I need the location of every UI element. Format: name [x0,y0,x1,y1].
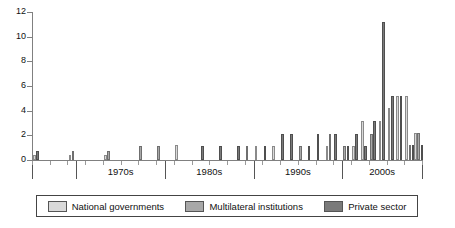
x-axis-tick [369,161,370,165]
x-axis-tick [422,161,423,165]
x-axis-tick [404,161,405,165]
swatch-national-governments-icon [48,201,67,212]
bar-segment-national-governments [33,155,36,160]
y-axis-label: 2 [0,130,26,139]
bar-group [352,12,359,160]
decade-label: 1980s [165,166,254,178]
bar-group [104,12,111,160]
bar-segment-national-governments [272,146,275,160]
bar-segment-national-governments [405,96,408,160]
bar-group [396,12,403,160]
bar-segment-private-sector [391,96,394,160]
bar-segment-private-sector [290,134,293,160]
x-axis-tick [227,161,228,165]
x-axis-tick [209,161,210,165]
bar-group [281,12,284,160]
x-axis-tick [387,161,388,165]
bar-group [317,12,320,160]
legend-item-private-sector: Private sector [324,201,406,212]
x-axis-tick [262,161,263,165]
legend-item-multilateral-institutions: Multilateral institutions [185,201,302,212]
bar-segment-private-sector [36,151,39,160]
bar-group [299,12,302,160]
bar-segment-private-sector [308,146,311,160]
swatch-multilateral-institutions-icon [185,201,204,212]
bar-group [334,12,337,160]
bar-segment-private-sector [355,134,358,160]
x-axis-tick [103,161,104,165]
bar-segment-multilateral-institutions [329,134,332,160]
legend-item-national-governments: National governments [48,201,164,212]
bar-segment-private-sector [237,146,240,160]
chart-legend: National governments Multilateral instit… [36,195,418,217]
legend-label-national-governments: National governments [72,201,164,212]
decade-label: 2000s [342,166,422,178]
y-axis-label: 4 [0,106,26,115]
bar-segment-multilateral-institutions [139,146,142,160]
bar-group [388,12,395,160]
swatch-private-sector-icon [324,201,343,212]
bar-segment-national-governments [388,108,391,160]
bar-segment-private-sector [364,146,367,160]
bar-segment-multilateral-institutions [246,146,249,160]
bar-segment-multilateral-institutions [409,145,412,160]
bar-group [272,12,275,160]
bar-group [414,12,424,160]
bar-group [379,12,386,160]
bar-segment-national-governments [326,146,329,160]
bar-segment-private-sector [347,146,350,160]
legend-label-private-sector: Private sector [348,201,406,212]
bar-group [343,12,350,160]
bar-group [264,12,267,160]
y-axis-label: 8 [0,56,26,65]
bar-segment-private-sector [317,134,320,160]
bar-segment-multilateral-institutions [343,146,346,160]
legend-label-multilateral-institutions: Multilateral institutions [209,201,302,212]
bar-segment-private-sector [281,134,284,160]
bar-segment-private-sector [264,146,267,160]
y-axis-label: 0 [0,155,26,164]
bar-segment-multilateral-institutions [157,146,160,160]
y-axis-label: 10 [0,32,26,41]
bar-segment-national-governments [104,155,107,160]
bar-group [157,12,160,160]
plot-area [32,12,422,160]
decade-label: 1990s [254,166,343,178]
bar-segment-national-governments [69,155,72,160]
x-axis-tick [280,161,281,165]
x-axis-tick [32,161,33,165]
y-axis-label: 12 [0,7,26,16]
bar-group [201,12,204,160]
bar-segment-multilateral-institutions [417,133,420,160]
x-axis-tick [298,161,299,165]
bar-group [361,12,368,160]
bar-group [246,12,249,160]
x-axis-tick [245,161,246,165]
bar-group [370,12,377,160]
bar-segment-private-sector [421,145,424,160]
x-axis-tick [333,161,334,165]
bar-group [33,12,40,160]
x-axis-tick [50,161,51,165]
bar-segment-private-sector [400,96,403,160]
bar-group [290,12,293,160]
bar-group [175,12,178,160]
bar-group [326,12,333,160]
x-axis-tick [316,161,317,165]
bar-segment-national-governments [352,146,355,160]
bar-chart: 024681012 1970s1980s1990s2000s National … [0,0,455,228]
x-axis-tick [192,161,193,165]
bar-segment-private-sector [219,146,222,160]
bar-segment-private-sector [201,146,204,160]
x-axis-tick [121,161,122,165]
x-axis-tick [67,161,68,165]
x-axis-tick [156,161,157,165]
bar-segment-private-sector [373,121,376,160]
bar-segment-national-governments [175,145,178,160]
bar-group [139,12,142,160]
x-axis-tick [351,161,352,165]
bar-segment-national-governments [396,96,399,160]
bar-group [69,12,76,160]
bar-segment-multilateral-institutions [299,146,302,160]
bar-segment-multilateral-institutions [107,151,110,160]
